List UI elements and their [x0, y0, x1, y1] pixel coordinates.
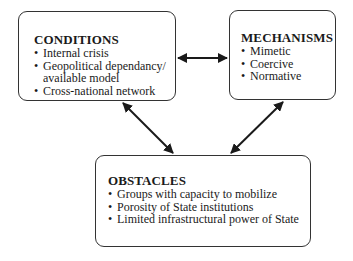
obstacles-list: Groups with capacity to mobilize Porosit… [108, 188, 299, 226]
obstacles-title: OBSTACLES [108, 173, 299, 188]
obstacles-box: OBSTACLES Groups with capacity to mobili… [95, 155, 311, 247]
list-item: Geopolitical dependancy/ [34, 60, 166, 73]
list-item: Mimetic [241, 45, 333, 58]
list-item-continuation: available model [34, 72, 166, 85]
arrow-mechanisms-obstacles [231, 102, 283, 153]
list-item: Cross-national network [34, 85, 166, 98]
mechanisms-title: MECHANISMS [241, 30, 333, 45]
mechanisms-list: Mimetic Coercive Normative [241, 45, 333, 83]
mechanisms-box: MECHANISMS Mimetic Coercive Normative [229, 10, 336, 100]
conditions-title: CONDITIONS [34, 32, 166, 47]
list-item: Internal crisis [34, 47, 166, 60]
conditions-box: CONDITIONS Internal crisis Geopolitical … [18, 11, 176, 101]
list-item: Groups with capacity to mobilize [108, 188, 299, 201]
list-item: Normative [241, 70, 333, 83]
conditions-list: Internal crisis Geopolitical dependancy/… [34, 47, 166, 97]
list-item: Limited infrastructural power of State [108, 213, 299, 226]
arrow-conditions-obstacles [123, 103, 173, 153]
